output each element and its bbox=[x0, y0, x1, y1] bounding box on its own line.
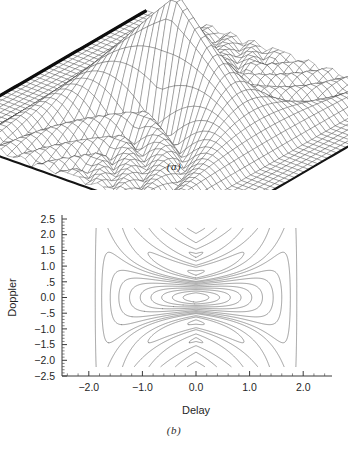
y-tick-label: 1.5 bbox=[40, 244, 55, 256]
panel-b-caption: (b) bbox=[0, 424, 348, 436]
y-tick-label: −2.5 bbox=[34, 370, 55, 382]
y-tick-label: .5 bbox=[46, 276, 55, 288]
x-tick-label: 0.0 bbox=[189, 381, 204, 393]
y-axis-title: Doppler bbox=[6, 278, 18, 317]
y-tick-label: 1.0 bbox=[40, 260, 55, 272]
y-tick-label: −.5 bbox=[40, 307, 55, 319]
y-tick-label: 2.5 bbox=[40, 213, 55, 225]
panel-a-caption: (a) bbox=[0, 160, 348, 172]
y-tick-label: −1.0 bbox=[34, 323, 55, 335]
contour-plot-svg: 2.52.01.51.0.50.0−.5−1.0−1.5−2.0−2.5−2.0… bbox=[0, 196, 348, 454]
panel-b-contour-plot: 2.52.01.51.0.50.0−.5−1.0−1.5−2.0−2.5−2.0… bbox=[0, 196, 348, 454]
figure-ambiguity-function: (a) 2.52.01.51.0.50.0−.5−1.0−1.5−2.0−2.5… bbox=[0, 0, 348, 454]
y-tick-label: 2.0 bbox=[40, 228, 55, 240]
x-tick-label: −1.0 bbox=[132, 381, 153, 393]
x-tick-label: −2.0 bbox=[78, 381, 99, 393]
y-tick-label: −2.0 bbox=[34, 354, 55, 366]
y-tick-label: −1.5 bbox=[34, 338, 55, 350]
x-tick-label: 1.0 bbox=[242, 381, 257, 393]
x-tick-label: 2.0 bbox=[296, 381, 311, 393]
x-axis-title: Delay bbox=[182, 404, 211, 416]
y-tick-label: 0.0 bbox=[40, 291, 55, 303]
